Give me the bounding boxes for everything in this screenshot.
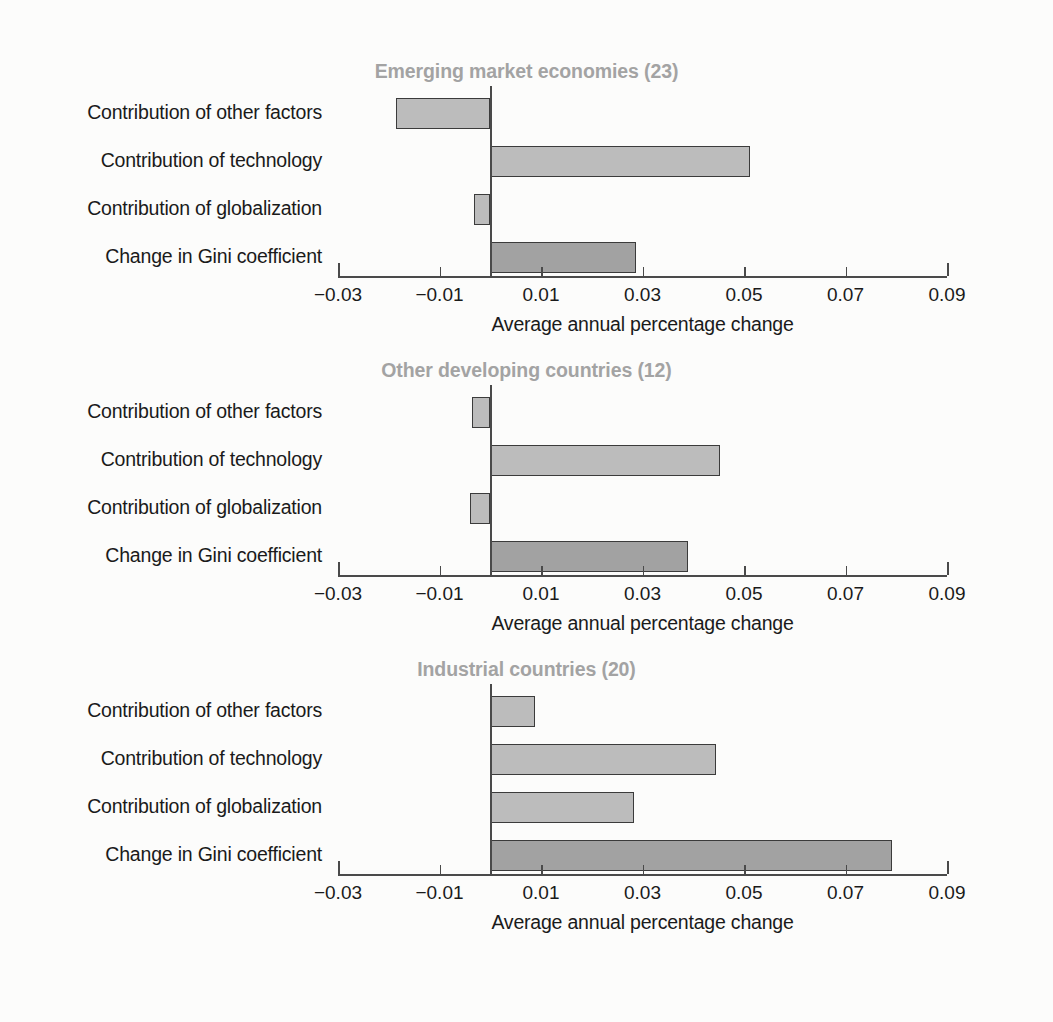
bar-light [490,792,634,823]
x-axis-tick [947,861,949,874]
x-axis-line [338,874,947,876]
chart-title: Industrial countries (20) [0,658,1053,681]
x-axis-tick [440,865,442,874]
category-label-text: Contribution of technology [0,747,322,770]
x-axis-title: Average annual percentage change [338,911,947,934]
category-label: Change in Gini coefficient [0,843,322,866]
bar-dark [490,840,892,871]
figure-container: Emerging market economies (23)Contributi… [0,0,1053,1022]
x-axis-tick-label: 0.01 [496,882,586,904]
x-axis-tick-label: 0.07 [801,882,891,904]
zero-baseline [490,684,492,874]
x-axis-tick-label: −0.03 [293,882,383,904]
x-axis-tick [338,861,340,874]
x-axis-tick-label: 0.05 [699,882,789,904]
x-axis-tick-label: 0.09 [902,882,992,904]
category-label-text: Contribution of globalization [0,795,322,818]
x-axis-tick [744,865,746,874]
x-axis-tick [643,865,645,874]
category-label: Contribution of other factors [0,699,322,722]
x-axis-tick-label: −0.01 [395,882,485,904]
x-axis-tick [846,865,848,874]
category-label: Contribution of globalization [0,795,322,818]
bar-light [490,744,716,775]
category-label-text: Contribution of other factors [0,699,322,722]
bar-light [490,696,535,727]
chart-panel-3: Industrial countries (20)Contribution of… [0,0,1053,1022]
x-axis-tick-label: 0.03 [598,882,688,904]
x-axis-tick [541,865,543,874]
category-label-text: Change in Gini coefficient [0,843,322,866]
category-label: Contribution of technology [0,747,322,770]
